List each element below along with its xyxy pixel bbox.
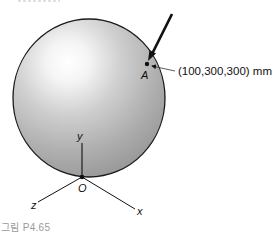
point-a-dot [145,62,149,66]
origin-label: O [78,182,87,194]
cropped-text-line [18,0,60,2]
diagram-canvas: A (100,300,300) mm y z x O [0,0,274,237]
coordinate-label: (100,300,300) mm [178,65,272,77]
z-axis-label: z [30,199,37,211]
sphere-figure: A (100,300,300) mm y z x O 그림 P4.65 [0,0,274,237]
x-axis [82,177,135,209]
point-a-label: A [140,69,148,81]
origin-dot [80,175,85,180]
force-arrow [152,14,172,54]
sphere [13,19,165,177]
figure-caption: 그림 P4.65 [1,219,50,234]
x-axis-label: x [136,205,143,217]
z-axis [38,177,82,202]
